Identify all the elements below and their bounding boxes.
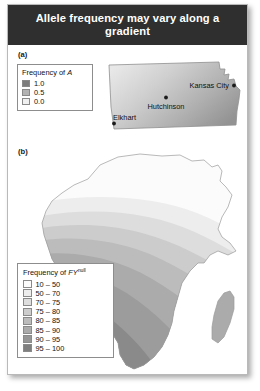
legend-panel-b: Frequency of FYnull 10 – 50 50 – 70 70 –… [17,263,114,358]
legend-b-range-4: 75 – 80 [36,307,61,316]
figure-title-bar: Allele frequency may vary along a gradie… [8,5,247,45]
legend-a-swatch-2 [22,89,30,97]
panel-a-label: (a) [18,50,27,59]
legend-b-range-1: 10 – 50 [36,280,61,289]
legend-b-title: Frequency of FYnull [23,267,109,277]
legend-a-entry: 0.0 [22,97,88,106]
legend-b-swatch-8 [23,344,32,352]
legend-a-value-1: 1.0 [34,79,44,88]
legend-a-entry: 0.5 [22,88,88,97]
legend-b-title-symbol: FY [68,268,77,277]
legend-b-entry: 75 – 80 [23,307,109,316]
legend-b-range-3: 70 – 75 [36,298,61,307]
legend-b-entry: 10 – 50 [23,279,109,288]
city-label-kansas-city: Kansas City [190,81,230,90]
kansas-map: Kansas City Hutchinson Elkhart [103,59,245,133]
legend-b-swatch-3 [23,298,32,306]
legend-a-entry: 1.0 [22,79,88,88]
legend-b-entry: 50 – 70 [23,289,109,298]
legend-b-range-7: 90 – 95 [36,335,61,344]
legend-panel-a: Frequency of A 1.0 0.5 0.0 [17,64,93,111]
legend-a-title: Frequency of A [22,68,88,77]
city-dot-elkhart [112,122,116,126]
city-dot-kansas-city [232,84,236,88]
legend-b-swatch-2 [23,289,32,297]
city-dot-hutchinson [164,96,168,100]
legend-b-title-superscript: null [78,267,86,273]
legend-a-value-2: 0.5 [34,88,44,97]
legend-b-title-prefix: Frequency of [23,268,68,277]
legend-b-range-5: 80 – 85 [36,316,61,325]
legend-b-range-8: 95 – 100 [36,344,65,353]
legend-b-entry: 70 – 75 [23,298,109,307]
legend-b-entry: 85 – 90 [23,325,109,334]
legend-a-title-symbol: A [67,68,72,77]
legend-b-swatch-6 [23,326,32,334]
legend-a-swatch-3 [22,98,30,106]
legend-b-swatch-5 [23,317,32,325]
legend-b-entry: 90 – 95 [23,335,109,344]
legend-b-swatch-4 [23,308,32,316]
legend-b-range-2: 50 – 70 [36,289,61,298]
legend-b-entry: 80 – 85 [23,316,109,325]
city-label-hutchinson: Hutchinson [148,102,185,111]
legend-a-value-3: 0.0 [34,97,44,106]
legend-b-range-6: 85 – 90 [36,326,61,335]
legend-a-swatch-1 [22,80,30,88]
page-title: Allele frequency may vary along a gradie… [8,12,247,39]
madagascar-shape [202,281,244,361]
figure-card: Allele frequency may vary along a gradie… [7,4,248,375]
legend-b-swatch-7 [23,335,32,343]
legend-a-title-prefix: Frequency of [22,68,67,77]
legend-b-swatch-1 [23,280,32,288]
city-label-elkhart: Elkhart [113,113,136,122]
legend-b-entry: 95 – 100 [23,344,109,353]
